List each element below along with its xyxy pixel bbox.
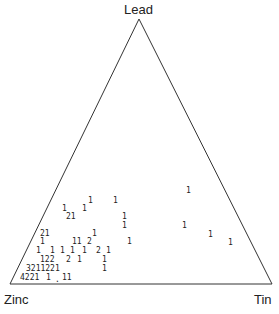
count-label: 1 <box>36 246 41 255</box>
count-label: 2 <box>87 237 92 246</box>
count-points: 1111121111121111121111111211222113211221… <box>20 186 233 284</box>
count-label: 1 <box>46 273 51 282</box>
count-label: 1 <box>82 204 87 213</box>
ternary-diagram: 1111121111121111121111111211222113211221… <box>0 0 279 314</box>
count-label: 1 <box>40 237 45 246</box>
count-label: 1 <box>182 221 187 230</box>
count-label: . <box>55 275 60 284</box>
count-label: 122 <box>40 255 55 264</box>
count-label: 1 <box>208 230 213 239</box>
count-label: 1 <box>60 246 65 255</box>
count-label: 11 <box>62 273 72 282</box>
count-label: 1 <box>88 196 93 205</box>
count-label: 1 <box>106 246 111 255</box>
count-label: 11 <box>72 237 82 246</box>
count-label: 3211221 <box>26 264 60 273</box>
count-label: 1 <box>122 212 127 221</box>
count-label: 1 <box>82 246 87 255</box>
count-label: 2 <box>96 246 101 255</box>
count-label: 1 <box>228 238 233 247</box>
count-label: 1 <box>122 221 127 230</box>
count-label: 1 <box>102 264 107 273</box>
count-label: 1 <box>113 196 118 205</box>
count-label: 1 <box>92 229 97 238</box>
count-label: 4221 <box>20 273 39 282</box>
count-label: 21 <box>66 212 76 221</box>
count-label: 2 <box>66 255 71 264</box>
count-label: 1 <box>127 237 132 246</box>
count-label: 1 <box>186 186 191 195</box>
count-label: 1 <box>102 255 107 264</box>
count-label: 1 <box>77 255 82 264</box>
count-label: 1 <box>50 246 55 255</box>
count-label: 1 <box>70 246 75 255</box>
